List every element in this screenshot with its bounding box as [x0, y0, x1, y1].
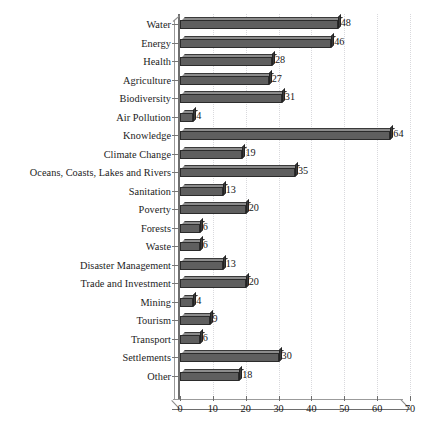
bar — [180, 39, 331, 48]
bar-value-label: 31 — [285, 92, 295, 102]
category-label: Mining — [140, 297, 171, 308]
value-tick-label: 20 — [241, 403, 251, 414]
bar — [180, 94, 282, 103]
category-label: Sanitation — [129, 186, 171, 197]
plot-area: 4846282731464193513206613204963018 — [180, 14, 410, 399]
bar-value-label: 13 — [226, 185, 236, 195]
category-tick — [172, 376, 178, 377]
bar — [180, 335, 200, 344]
bar — [180, 298, 193, 307]
bar-front-face — [180, 113, 193, 122]
bar — [180, 131, 390, 140]
bar-front-face — [180, 76, 269, 85]
value-tick-label: 10 — [208, 403, 218, 414]
bar — [180, 224, 200, 233]
bar-front-face — [180, 335, 200, 344]
category-label: Agriculture — [123, 75, 171, 86]
bar — [180, 187, 223, 196]
category-label: Knowledge — [123, 130, 171, 141]
category-label: Waste — [146, 241, 171, 252]
bar — [180, 261, 223, 270]
bar — [180, 372, 239, 381]
bar-value-label: 9 — [213, 314, 218, 324]
value-axis: 010203040506070 — [180, 396, 420, 426]
bar-value-label: 28 — [275, 55, 285, 65]
category-label: Energy — [141, 38, 171, 49]
category-label: Other — [147, 371, 171, 382]
bar-value-label: 6 — [203, 240, 208, 250]
category-label: Settlements — [122, 352, 171, 363]
bar-value-label: 27 — [272, 74, 282, 84]
bar-value-label: 13 — [226, 259, 236, 269]
bar-value-label: 20 — [249, 277, 259, 287]
category-axis-labels: WaterEnergyHealthAgricultureBiodiversity… — [0, 0, 177, 435]
category-label: Poverty — [139, 204, 171, 215]
bar-front-face — [180, 279, 246, 288]
value-tick-40 — [311, 396, 312, 401]
bar-front-face — [180, 205, 246, 214]
value-tick-70 — [410, 396, 411, 401]
value-tick-label: 40 — [306, 403, 316, 414]
category-tick — [172, 209, 178, 210]
bar-value-label: 4 — [196, 111, 201, 121]
value-tick-label: 60 — [372, 403, 382, 414]
bar-front-face — [180, 150, 242, 159]
value-tick-label: 70 — [405, 403, 415, 414]
category-label: Transport — [131, 334, 171, 345]
category-tick — [172, 265, 178, 266]
bar — [180, 316, 210, 325]
bar-front-face — [180, 353, 279, 362]
bar-value-label: 4 — [196, 296, 201, 306]
bar — [180, 242, 200, 251]
category-label: Water — [146, 19, 171, 30]
bar-value-label: 6 — [203, 222, 208, 232]
category-tick — [172, 172, 178, 173]
bar-front-face — [180, 316, 210, 325]
bar-value-label: 18 — [242, 370, 252, 380]
category-tick — [172, 283, 178, 284]
category-tick — [172, 246, 178, 247]
value-tick-label: 50 — [339, 403, 349, 414]
category-tick — [172, 154, 178, 155]
category-label: Trade and Investment — [81, 278, 171, 289]
value-tick-label: 0 — [177, 403, 182, 414]
category-label: Biodiversity — [119, 93, 171, 104]
bar-front-face — [180, 168, 295, 177]
category-tick — [172, 302, 178, 303]
category-tick — [172, 80, 178, 81]
category-tick — [172, 43, 178, 44]
category-tick — [172, 228, 178, 229]
category-tick — [172, 24, 178, 25]
bar — [180, 57, 272, 66]
gridline-40 — [311, 14, 313, 399]
category-label: Forests — [141, 223, 171, 234]
bar-value-label: 19 — [245, 148, 255, 158]
category-label: Oceans, Coasts, Lakes and Rivers — [30, 167, 171, 178]
category-label: Air Pollution — [116, 112, 171, 123]
bar — [180, 76, 269, 85]
bar-value-label: 48 — [341, 18, 351, 28]
category-tick — [172, 135, 178, 136]
gridline-50 — [344, 14, 346, 399]
value-tick-60 — [377, 396, 378, 401]
bar-value-label: 46 — [334, 37, 344, 47]
category-tick — [172, 191, 178, 192]
bar-front-face — [180, 57, 272, 66]
category-tick — [172, 61, 178, 62]
category-tick — [172, 320, 178, 321]
value-tick-0 — [180, 396, 181, 401]
value-tick-20 — [246, 396, 247, 401]
category-tick — [172, 117, 178, 118]
category-label: Health — [143, 56, 171, 67]
category-label: Tourism — [136, 315, 171, 326]
bar-front-face — [180, 372, 239, 381]
value-tick-10 — [213, 396, 214, 401]
bar — [180, 205, 246, 214]
gridline-70 — [410, 14, 412, 399]
bar-value-label: 20 — [249, 203, 259, 213]
bar-front-face — [180, 20, 338, 29]
bar — [180, 113, 193, 122]
category-tick — [172, 339, 178, 340]
bar — [180, 279, 246, 288]
bar-front-face — [180, 94, 282, 103]
